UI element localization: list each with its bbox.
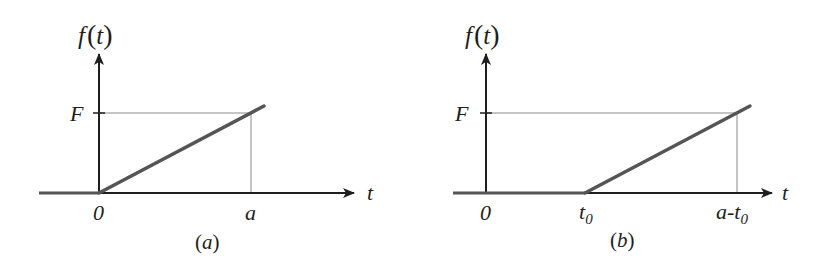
caption-a: (a) [195, 230, 220, 254]
caption-b: (b) [610, 228, 635, 252]
ramp-line [585, 106, 750, 193]
panel-a: f(t) F t 0 a (a) [39, 19, 374, 254]
ramp-line [99, 106, 264, 193]
panel-b: f(t) F t 0 t0 a-t0 (b) [453, 19, 789, 252]
y-axis-label: f(t) [78, 19, 113, 50]
x-tick-a: a [245, 200, 256, 225]
f-level-label: F [69, 101, 84, 126]
x-tick-t0: t0 [579, 199, 593, 227]
x-tick-zero: 0 [93, 200, 104, 225]
x-tick-a-minus-t0: a-t0 [716, 199, 748, 227]
x-axis-label: t [367, 180, 374, 205]
x-axis-label: t [782, 180, 789, 205]
x-tick-zero: 0 [480, 200, 491, 225]
f-level-label: F [454, 101, 469, 126]
y-axis-label: f(t) [465, 19, 500, 50]
ramp-diagram: f(t) F t 0 a (a) f(t) F t 0 t0 [0, 0, 814, 270]
